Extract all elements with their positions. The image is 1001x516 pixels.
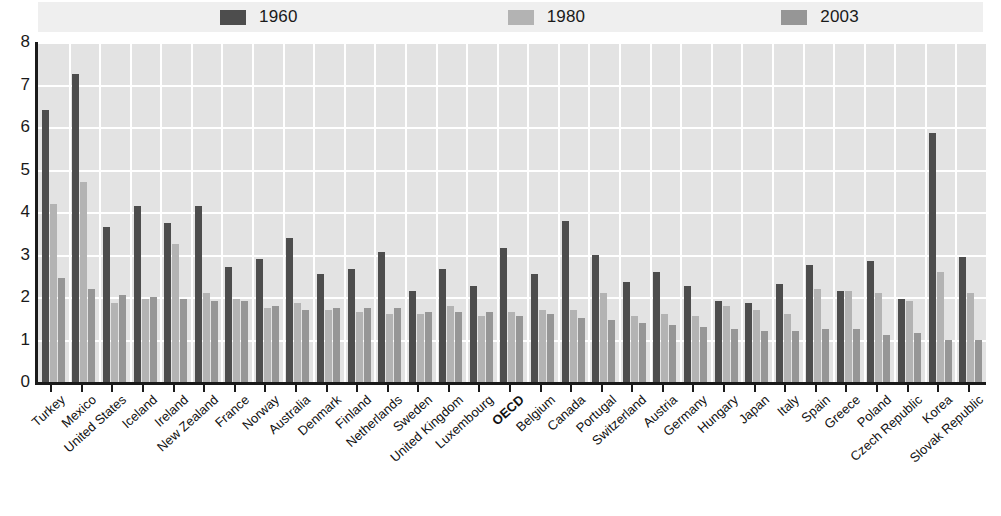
bar <box>623 282 630 382</box>
bar <box>784 314 791 382</box>
bar <box>172 244 179 382</box>
bar <box>325 310 332 382</box>
bar <box>745 303 752 382</box>
bar <box>776 284 783 382</box>
bar <box>661 314 668 382</box>
bar <box>967 293 974 382</box>
bar <box>180 299 187 382</box>
bar <box>684 286 691 382</box>
bar <box>111 303 118 382</box>
bar <box>103 227 110 382</box>
legend-item-2003: 2003 <box>781 2 859 32</box>
bar <box>570 310 577 382</box>
bar <box>42 110 49 382</box>
bar-group <box>191 42 222 382</box>
legend-item-1980: 1980 <box>508 2 586 32</box>
bar <box>822 329 829 382</box>
x-tick <box>295 385 297 392</box>
bar <box>317 274 324 382</box>
bar <box>929 133 936 382</box>
x-tick <box>142 385 144 392</box>
bar-group <box>588 42 619 382</box>
bar <box>425 312 432 382</box>
bar-group <box>497 42 528 382</box>
bar <box>516 316 523 382</box>
y-tick-label: 3 <box>4 245 30 265</box>
bar <box>867 261 874 382</box>
x-tick <box>631 385 633 392</box>
x-tick <box>50 385 52 392</box>
bar <box>225 267 232 382</box>
bar-groups <box>38 42 986 382</box>
x-tick <box>845 385 847 392</box>
bar <box>348 269 355 382</box>
bar-group <box>130 42 161 382</box>
y-tick-label: 7 <box>4 75 30 95</box>
bar <box>272 306 279 383</box>
x-tick <box>356 385 358 392</box>
y-tick-label: 6 <box>4 117 30 137</box>
bar <box>853 329 860 382</box>
bar-group <box>160 42 191 382</box>
bar <box>80 182 87 382</box>
bar <box>837 291 844 382</box>
x-tick <box>723 385 725 392</box>
bar-group <box>374 42 405 382</box>
bar <box>294 303 301 382</box>
bar <box>975 340 982 383</box>
bar <box>486 312 493 382</box>
bar <box>753 310 760 382</box>
x-tick <box>570 385 572 392</box>
chart-legend: 1960 1980 2003 <box>38 2 983 32</box>
bar-group <box>833 42 864 382</box>
bar <box>72 74 79 382</box>
bar-group <box>802 42 833 382</box>
x-tick <box>876 385 878 392</box>
bar-group <box>38 42 69 382</box>
bar <box>531 274 538 382</box>
bar <box>150 297 157 382</box>
bar <box>88 289 95 383</box>
x-axis-labels: TurkeyMexicoUnited StatesIcelandIrelandN… <box>35 392 1001 516</box>
bar <box>378 252 385 382</box>
bar-group <box>864 42 895 382</box>
bar-group <box>344 42 375 382</box>
bar <box>142 299 149 382</box>
bar <box>875 293 882 382</box>
x-tick <box>815 385 817 392</box>
bar <box>302 310 309 382</box>
bar <box>592 255 599 383</box>
bar <box>264 308 271 382</box>
x-tick <box>968 385 970 392</box>
bar <box>547 314 554 382</box>
x-tick <box>509 385 511 392</box>
x-tick <box>81 385 83 392</box>
y-tick-label: 2 <box>4 287 30 307</box>
bar <box>845 291 852 382</box>
x-tick <box>692 385 694 392</box>
bar <box>692 316 699 382</box>
y-tick-label: 8 <box>4 32 30 52</box>
bar-group <box>466 42 497 382</box>
bar-group <box>221 42 252 382</box>
bar <box>195 206 202 382</box>
x-tick <box>478 385 480 392</box>
bar <box>58 278 65 382</box>
y-tick-label: 5 <box>4 160 30 180</box>
bar <box>539 310 546 382</box>
x-tick <box>203 385 205 392</box>
bar <box>333 308 340 382</box>
bar <box>417 314 424 382</box>
bar-group <box>955 42 986 382</box>
legend-item-1960: 1960 <box>220 2 298 32</box>
bar-group <box>436 42 467 382</box>
bar <box>883 335 890 382</box>
bar <box>478 316 485 382</box>
bar-group <box>741 42 772 382</box>
bar <box>906 301 913 382</box>
bar-group <box>711 42 742 382</box>
bar <box>631 316 638 382</box>
y-tick-label: 1 <box>4 330 30 350</box>
bar <box>653 272 660 383</box>
bar <box>578 318 585 382</box>
